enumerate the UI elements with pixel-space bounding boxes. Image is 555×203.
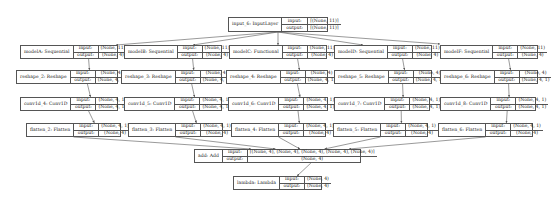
edge-modelF-to-reshape_6: [509, 59, 511, 70]
layer-name: modelC: Functional: [230, 46, 283, 58]
layer-node-flatten-6: flatten_6: Flatten input: (None, 4, 1) o…: [438, 123, 533, 137]
layer-io: input: (None, 4, 1) output: (None, 4, 1): [385, 98, 442, 110]
output-shape: (None, 4): [305, 184, 331, 190]
layer-name: reshape_4: Reshape: [227, 71, 281, 83]
layer-node-modelA: modelA: Sequential input: (None, 11) out…: [20, 45, 118, 59]
edge-modelC-to-reshape_4: [298, 59, 300, 70]
layer-name: flatten_2: Flatten: [27, 124, 74, 136]
output-row: output: (None, 4, 1): [389, 77, 446, 84]
edge-conv1d_8-to-flatten_6: [506, 111, 507, 123]
output-label: output:: [281, 78, 306, 84]
layer-node-reshape-2: reshape_2: Reshape input: (None, 4) outp…: [16, 70, 118, 84]
layer-io: input: [(None, 4), (None, 4), (None, 4),…: [223, 150, 377, 162]
output-row: output: (None, 4): [381, 130, 438, 137]
output-shape: (None, 4): [304, 131, 336, 137]
output-shape: (None, 4): [248, 157, 377, 163]
output-row: output: (None, 4, 1): [176, 77, 233, 84]
output-shape: (None, 4): [518, 53, 547, 59]
edge-flatten_6-to-add: [349, 137, 486, 149]
edge-add-to-lambda: [297, 163, 311, 176]
output-label: output:: [279, 105, 304, 111]
layer-name: flatten_3: Flatten: [129, 124, 176, 136]
layer-node-modelB: modelB: Sequential input: (None, 11) out…: [124, 45, 222, 59]
edge-conv1d_5-to-flatten_3: [193, 111, 197, 123]
output-label: output:: [74, 131, 99, 137]
model-graph: input_6: InputLayer input: [(None, 11)] …: [0, 0, 555, 203]
output-label: output:: [493, 53, 518, 59]
layer-name: modelB: Sequential: [125, 46, 178, 58]
layer-name: modelD: Sequential: [335, 46, 388, 58]
layer-node-conv1d-8: conv1d_8: Conv1D input: (None, 4, 1) out…: [440, 97, 536, 111]
layer-node-reshape-3: reshape_3: Reshape input: (None, 4) outp…: [121, 70, 222, 84]
layer-io: input: (None, 4, 1) output: (None, 4): [486, 124, 543, 136]
edge-modelD-to-reshape_5: [403, 59, 405, 70]
edge-input_6-to-modelA: [116, 32, 278, 45]
output-row: output: (None, 4, 1): [385, 104, 442, 111]
edge-input_6-to-modelB: [193, 32, 278, 45]
layer-io: input: (None, 4, 1) output: (None, 4): [74, 124, 131, 136]
layer-node-reshape-5: reshape_5: Reshape input: (None, 4) outp…: [334, 70, 432, 84]
edge-flatten_4-to-add: [279, 137, 301, 149]
output-row: output: [(None, 11)]: [282, 24, 340, 31]
layer-node-flatten-2: flatten_2: Flatten input: (None, 4, 1) o…: [26, 123, 121, 137]
output-label: output:: [175, 105, 200, 111]
layer-name: flatten_6: Flatten: [439, 124, 486, 136]
output-shape: (None, 4, 1): [520, 78, 552, 84]
output-shape: (None, 4, 1): [410, 105, 442, 111]
layer-io: input: (None, 4, 1) output: (None, 4): [279, 124, 336, 136]
output-row: output: (None, 4, 1): [495, 77, 552, 84]
layer-name: flatten_5: Flatten: [334, 124, 381, 136]
output-shape: (None, 4): [201, 131, 233, 137]
output-label: output:: [385, 105, 410, 111]
layer-node-conv1d-5: conv1d_5: Conv1D input: (None, 4, 1) out…: [124, 97, 222, 111]
layer-io: input: (None, 11) output: (None, 4): [493, 46, 547, 58]
layer-io: input: (None, 4, 1) output: (None, 4): [381, 124, 438, 136]
edge-reshape_6-to-conv1d_8: [509, 84, 510, 97]
output-label: output:: [280, 184, 305, 190]
layer-node-input-6: input_6: InputLayer input: [(None, 11)] …: [228, 17, 328, 32]
layer-io: input: (None, 4) output: (None, 4, 1): [281, 71, 338, 83]
layer-node-modelF: modelF: Sequential input: (None, 11) out…: [440, 45, 538, 59]
layer-node-conv1d-7: conv1d_7: Conv1D input: (None, 4, 1) out…: [334, 97, 430, 111]
layer-io: input: (None, 4, 1) output: (None, 4, 1): [491, 98, 548, 110]
output-label: output:: [279, 131, 304, 137]
layer-name: input_6: InputLayer: [229, 18, 282, 31]
layer-io: input: (None, 11) output: (None, 4): [283, 46, 337, 58]
layer-node-flatten-3: flatten_3: Flatten input: (None, 4, 1) o…: [128, 123, 223, 137]
layer-name: add: Add: [195, 150, 223, 162]
output-row: output: (None, 4): [486, 130, 543, 137]
layer-io: input: (None, 11) output: (None, 4): [178, 46, 232, 58]
layer-io: input: (None, 4) output: (None, 4, 1): [495, 71, 552, 83]
layer-node-conv1d-6: conv1d_6: Conv1D input: (None, 4, 1) out…: [228, 97, 328, 111]
layer-node-reshape-4: reshape_4: Reshape input: (None, 4) outp…: [226, 70, 328, 84]
output-label: output:: [282, 25, 308, 31]
layer-name: reshape_5: Reshape: [335, 71, 389, 83]
layer-node-reshape-6: reshape_6: Reshape input: (None, 4) outp…: [440, 70, 538, 84]
edge-modelA-to-reshape_2: [89, 59, 90, 70]
output-label: output:: [178, 53, 203, 59]
output-row: output: (None, 4, 1): [279, 104, 336, 111]
layer-io: input: (None, 11) output: (None, 4): [74, 46, 128, 58]
output-row: output: (None, 4): [283, 52, 337, 59]
layer-io: input: (None, 4) output: (None, 4, 1): [176, 71, 233, 83]
output-row: output: (None, 4): [74, 52, 128, 59]
output-label: output:: [223, 157, 248, 163]
edge-reshape_5-to-conv1d_7: [403, 84, 404, 97]
output-label: output:: [388, 53, 413, 59]
layer-io: input: (None, 4, 1) output: (None, 4, 1): [279, 98, 336, 110]
output-shape: [(None, 11)]: [308, 25, 340, 31]
layer-io: input: (None, 4, 1) output: (None, 4, 1): [71, 98, 128, 110]
output-row: output: (None, 4): [176, 130, 233, 137]
output-label: output:: [381, 131, 406, 137]
output-row: output: (None, 4): [223, 156, 377, 163]
layer-name: reshape_6: Reshape: [441, 71, 495, 83]
output-row: output: (None, 4, 1): [281, 77, 338, 84]
output-row: output: (None, 4, 1): [71, 104, 128, 111]
layer-io: input: [(None, 11)] output: [(None, 11)]: [282, 18, 340, 31]
output-row: output: (None, 4): [74, 130, 131, 137]
layer-name: lambda: Lambda: [234, 177, 280, 189]
layer-name: conv1d_7: Conv1D: [335, 98, 385, 110]
output-label: output:: [486, 131, 511, 137]
output-row: output: (None, 4): [279, 130, 336, 137]
output-shape: (None, 4, 1): [304, 105, 336, 111]
